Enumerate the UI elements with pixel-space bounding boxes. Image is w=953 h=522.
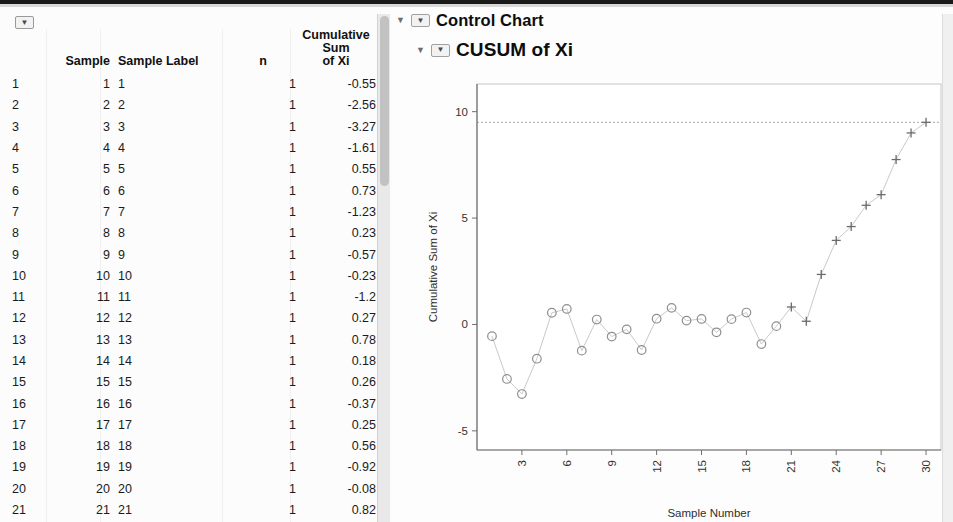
cell-sample: 8 xyxy=(46,223,110,244)
row-index: 14 xyxy=(8,351,46,372)
table-row[interactable]: 4441-1.61 xyxy=(8,138,380,159)
x-axis-tick-label: 6 xyxy=(561,460,573,466)
cell-sample: 16 xyxy=(46,393,110,414)
table-row[interactable]: 13131310.78 xyxy=(8,330,380,351)
column-header-sample[interactable]: Sample xyxy=(46,29,110,74)
y-axis-title: Cumulative Sum of Xi xyxy=(427,212,439,323)
cell-cumulative-sum: 0.27 xyxy=(296,308,380,329)
cell-cumulative-sum: -0.23 xyxy=(296,266,380,287)
cell-sample-label: 8 xyxy=(110,223,230,244)
cell-sample: 1 xyxy=(46,74,110,95)
table-row[interactable]: 15151510.26 xyxy=(8,372,380,393)
cell-cumulative-sum: 0.56 xyxy=(296,436,380,457)
table-row[interactable]: 66610.73 xyxy=(8,180,380,201)
cell-sample-label: 16 xyxy=(110,393,230,414)
cell-sample-label: 1 xyxy=(110,74,230,95)
cell-sample-label: 10 xyxy=(110,266,230,287)
cell-n: 1 xyxy=(230,95,296,116)
column-header-index[interactable] xyxy=(8,29,46,74)
cell-sample: 13 xyxy=(46,330,110,351)
table-row[interactable]: 7771-1.23 xyxy=(8,202,380,223)
table-row[interactable]: 21212110.82 xyxy=(8,500,380,521)
cell-sample: 9 xyxy=(46,244,110,265)
cell-sample-label: 3 xyxy=(110,117,230,138)
table-row[interactable]: 14141410.18 xyxy=(8,351,380,372)
y-axis-tick-label: 5 xyxy=(462,212,468,224)
x-axis-tick-label: 21 xyxy=(785,460,797,473)
x-axis-tick-label: 9 xyxy=(606,460,618,466)
row-index: 15 xyxy=(8,372,46,393)
cell-sample: 15 xyxy=(46,372,110,393)
cell-n: 1 xyxy=(230,500,296,521)
table-row[interactable]: 17171710.25 xyxy=(8,415,380,436)
table-row[interactable]: 2020201-0.08 xyxy=(8,479,380,500)
scrollbar-thumb[interactable] xyxy=(380,16,389,186)
cell-cumulative-sum: 0.55 xyxy=(296,159,380,180)
table-row[interactable]: 1919191-0.92 xyxy=(8,457,380,478)
cell-sample-label: 14 xyxy=(110,351,230,372)
table-row[interactable]: 1010101-0.23 xyxy=(8,266,380,287)
cell-n: 1 xyxy=(230,479,296,500)
cell-n: 1 xyxy=(230,223,296,244)
cell-cumulative-sum: 0.25 xyxy=(296,415,380,436)
cell-n: 1 xyxy=(230,308,296,329)
cell-sample-label: 2 xyxy=(110,95,230,116)
cell-cumulative-sum: -1.61 xyxy=(296,138,380,159)
cell-sample: 7 xyxy=(46,202,110,223)
cell-sample-label: 6 xyxy=(110,180,230,201)
y-axis-tick-label: 10 xyxy=(455,106,468,118)
x-axis-tick-label: 27 xyxy=(875,460,887,473)
table-row[interactable]: 55510.55 xyxy=(8,159,380,180)
table-row[interactable]: 1111-0.55 xyxy=(8,74,380,95)
cell-sample-label: 12 xyxy=(110,308,230,329)
cell-sample: 20 xyxy=(46,479,110,500)
x-axis-tick-label: 18 xyxy=(740,460,752,473)
cusum-plot: -5051036912151821242730Sample NumberCumu… xyxy=(392,7,953,522)
table-row[interactable]: 9991-0.57 xyxy=(8,244,380,265)
cell-n: 1 xyxy=(230,436,296,457)
cell-sample: 6 xyxy=(46,180,110,201)
cell-cumulative-sum: -0.92 xyxy=(296,457,380,478)
table-row[interactable]: 1111111-1.2 xyxy=(8,287,380,308)
cell-sample-label: 18 xyxy=(110,436,230,457)
row-index: 19 xyxy=(8,457,46,478)
row-index: 12 xyxy=(8,308,46,329)
cell-sample-label: 13 xyxy=(110,330,230,351)
cell-sample-label: 11 xyxy=(110,287,230,308)
column-header-cumulative-sum[interactable]: Cumulative Sum of Xi xyxy=(296,29,380,74)
cell-sample: 4 xyxy=(46,138,110,159)
row-index: 9 xyxy=(8,244,46,265)
table-row[interactable]: 3331-3.27 xyxy=(8,117,380,138)
row-index: 5 xyxy=(8,159,46,180)
cell-sample-label: 9 xyxy=(110,244,230,265)
x-axis-tick-label: 12 xyxy=(651,460,663,473)
x-axis-tick-label: 30 xyxy=(920,460,932,473)
column-header-sample-label[interactable]: Sample Label xyxy=(110,29,230,74)
table-row[interactable]: 2221-2.56 xyxy=(8,95,380,116)
cell-cumulative-sum: -3.27 xyxy=(296,117,380,138)
cell-cumulative-sum: 0.82 xyxy=(296,500,380,521)
table-row[interactable]: 1616161-0.37 xyxy=(8,393,380,414)
table-row[interactable]: 88810.23 xyxy=(8,223,380,244)
row-index: 21 xyxy=(8,500,46,521)
cell-sample: 10 xyxy=(46,266,110,287)
column-header-n[interactable]: n xyxy=(230,29,296,74)
row-index: 17 xyxy=(8,415,46,436)
cell-sample: 5 xyxy=(46,159,110,180)
cell-n: 1 xyxy=(230,415,296,436)
cell-sample-label: 19 xyxy=(110,457,230,478)
table-vertical-scrollbar[interactable] xyxy=(377,14,390,522)
table-disclosure-toggle[interactable]: ▼ xyxy=(15,16,34,29)
table-row[interactable]: 18181810.56 xyxy=(8,436,380,457)
x-axis-tick-label: 15 xyxy=(696,460,708,473)
cell-sample: 18 xyxy=(46,436,110,457)
cell-cumulative-sum: 0.18 xyxy=(296,351,380,372)
chart-vertical-scrollbar[interactable] xyxy=(942,14,953,522)
table-row[interactable]: 12121210.27 xyxy=(8,308,380,329)
cell-sample-label: 17 xyxy=(110,415,230,436)
cell-n: 1 xyxy=(230,330,296,351)
row-index: 20 xyxy=(8,479,46,500)
cell-n: 1 xyxy=(230,393,296,414)
cell-sample: 19 xyxy=(46,457,110,478)
cell-cumulative-sum: 0.23 xyxy=(296,223,380,244)
